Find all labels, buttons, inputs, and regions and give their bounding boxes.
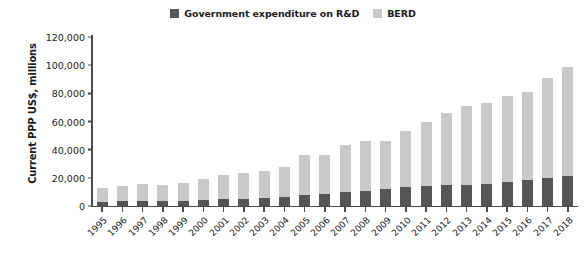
x-axis-tick-mark bbox=[304, 206, 306, 212]
bar-segment-government-expenditure bbox=[279, 197, 290, 206]
bar-segment-berd bbox=[97, 188, 108, 202]
x-axis-tick-mark bbox=[122, 206, 124, 212]
bar-column[interactable] bbox=[153, 37, 173, 206]
bar-segment-government-expenditure bbox=[380, 189, 391, 206]
x-axis-tick bbox=[274, 206, 294, 212]
legend-entry-government-expenditure: Government expenditure on R&D bbox=[170, 8, 359, 19]
bar-column[interactable] bbox=[355, 37, 375, 206]
bar-column[interactable] bbox=[234, 37, 254, 206]
bar-segment-berd bbox=[421, 122, 432, 187]
x-axis-tick-label: 2011 bbox=[410, 215, 433, 238]
bar-stack bbox=[481, 103, 492, 206]
x-axis-tick-label: 2009 bbox=[369, 215, 392, 238]
bar-column[interactable] bbox=[396, 37, 416, 206]
x-axis-tick-mark bbox=[446, 206, 448, 212]
bar-column[interactable] bbox=[193, 37, 213, 206]
bar-column[interactable] bbox=[416, 37, 436, 206]
bar-segment-government-expenditure bbox=[218, 199, 229, 206]
bar-stack bbox=[238, 173, 249, 206]
bar-segment-berd bbox=[157, 185, 168, 201]
bar-column[interactable] bbox=[315, 37, 335, 206]
x-axis-tick-label: 2007 bbox=[329, 215, 352, 238]
y-axis-title: Current PPP US$, millions bbox=[27, 34, 38, 194]
y-axis-tick: 60,000 bbox=[52, 116, 92, 127]
bar-column[interactable] bbox=[133, 37, 153, 206]
x-axis-tick bbox=[254, 206, 274, 212]
bar-column[interactable] bbox=[112, 37, 132, 206]
bar-segment-berd bbox=[259, 171, 270, 198]
bar-column[interactable] bbox=[376, 37, 396, 206]
bar-column[interactable] bbox=[558, 37, 578, 206]
bar-column[interactable] bbox=[274, 37, 294, 206]
x-axis-tick-mark bbox=[506, 206, 508, 212]
x-axis-tick bbox=[376, 206, 396, 212]
bar-stack bbox=[340, 145, 351, 206]
bar-stack bbox=[117, 186, 128, 206]
bar-column[interactable] bbox=[295, 37, 315, 206]
x-axis-tick-mark bbox=[425, 206, 427, 212]
bar-segment-government-expenditure bbox=[360, 191, 371, 206]
bar-column[interactable] bbox=[538, 37, 558, 206]
y-axis-tick: 20,000 bbox=[52, 172, 92, 183]
rd-expenditure-stacked-bar-chart: Government expenditure on R&D BERD Curre… bbox=[0, 0, 586, 253]
bar-segment-berd bbox=[198, 179, 209, 201]
bar-segment-berd bbox=[299, 155, 310, 195]
x-axis-tick-mark bbox=[243, 206, 245, 212]
x-axis-tick bbox=[416, 206, 436, 212]
bar-segment-berd bbox=[481, 103, 492, 184]
x-axis-tick bbox=[396, 206, 416, 212]
bar-segment-berd bbox=[562, 67, 573, 177]
x-axis-tick bbox=[295, 206, 315, 212]
bar-column[interactable] bbox=[477, 37, 497, 206]
bar-stack bbox=[522, 92, 533, 206]
bar-segment-government-expenditure bbox=[562, 176, 573, 206]
x-axis-tick-label: 2002 bbox=[228, 215, 251, 238]
x-axis-tick bbox=[133, 206, 153, 212]
bar-segment-government-expenditure bbox=[522, 180, 533, 206]
x-axis-tick-mark bbox=[101, 206, 103, 212]
x-axis-tick bbox=[193, 206, 213, 212]
x-axis-tick-label: 1995 bbox=[86, 215, 109, 238]
bar-segment-berd bbox=[178, 183, 189, 201]
legend-label-government-expenditure: Government expenditure on R&D bbox=[184, 8, 359, 19]
bar-stack bbox=[198, 179, 209, 206]
x-axis-tick-label: 2017 bbox=[531, 215, 554, 238]
bar-stack bbox=[421, 122, 432, 206]
x-axis-tick-label: 1999 bbox=[167, 215, 190, 238]
bar-column[interactable] bbox=[214, 37, 234, 206]
bar-column[interactable] bbox=[457, 37, 477, 206]
bar-column[interactable] bbox=[335, 37, 355, 206]
bar-column[interactable] bbox=[92, 37, 112, 206]
x-axis-tick-mark bbox=[567, 206, 569, 212]
bar-stack bbox=[380, 141, 391, 206]
y-axis-tick-label: 80,000 bbox=[52, 88, 85, 99]
bar-segment-berd bbox=[360, 141, 371, 190]
x-axis-tick bbox=[153, 206, 173, 212]
bar-segment-government-expenditure bbox=[461, 185, 472, 206]
x-axis-tick-mark bbox=[405, 206, 407, 212]
x-axis-tick-label: 2001 bbox=[207, 215, 230, 238]
bar-segment-berd bbox=[400, 131, 411, 186]
bar-column[interactable] bbox=[254, 37, 274, 206]
bar-segment-berd bbox=[279, 167, 290, 197]
bar-stack bbox=[259, 171, 270, 206]
bar-column[interactable] bbox=[497, 37, 517, 206]
x-axis-tick bbox=[517, 206, 537, 212]
bar-segment-berd bbox=[340, 145, 351, 192]
x-axis-tick bbox=[112, 206, 132, 212]
bar-segment-government-expenditure bbox=[441, 185, 452, 206]
bar-segment-government-expenditure bbox=[542, 178, 553, 206]
y-axis-tick: 120,000 bbox=[46, 32, 92, 43]
bar-column[interactable] bbox=[517, 37, 537, 206]
x-axis-tick bbox=[214, 206, 234, 212]
x-axis-tick bbox=[558, 206, 578, 212]
bar-column[interactable] bbox=[436, 37, 456, 206]
bar-stack bbox=[178, 183, 189, 206]
x-axis-tick-label: 2015 bbox=[491, 215, 514, 238]
bar-column[interactable] bbox=[173, 37, 193, 206]
bar-segment-berd bbox=[137, 184, 148, 201]
x-axis-tick-mark bbox=[263, 206, 265, 212]
x-axis-tick-mark bbox=[344, 206, 346, 212]
bar-stack bbox=[279, 167, 290, 206]
bar-stack bbox=[502, 96, 513, 206]
